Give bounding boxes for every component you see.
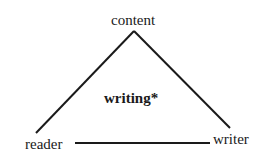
node-content-label: content <box>111 13 155 28</box>
node-reader-label: reader <box>25 137 62 152</box>
edge-content-writer <box>134 31 230 128</box>
rhetorical-triangle-diagram: content reader writer writing* <box>0 0 274 160</box>
node-writer-label: writer <box>213 132 249 147</box>
center-writing-label: writing* <box>104 91 158 106</box>
edge-content-reader <box>36 31 134 133</box>
